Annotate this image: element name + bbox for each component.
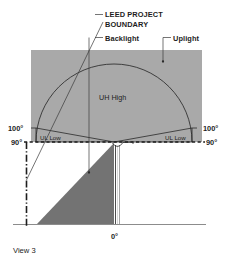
- luminaire-arm: [123, 142, 133, 144]
- backlight-label: Backlight: [105, 34, 140, 43]
- backlight-leader-dot: [88, 171, 90, 173]
- angle-label-left-90: 90°: [11, 138, 22, 147]
- lighting-zone-diagram: LEED PROJECT BOUNDARY Backlight Uplight …: [0, 0, 228, 267]
- angle-label-right-90: 90°: [206, 138, 217, 147]
- ul-low-right-label: UL Low: [165, 134, 186, 141]
- angle-label-left-100: 100°: [8, 124, 23, 133]
- ul-low-left-label: UL Low: [40, 134, 61, 141]
- backlight-shadow-triangle: [37, 143, 114, 224]
- leed-project-boundary-label-line1: LEED PROJECT: [105, 10, 163, 19]
- uh-high-label: UH High: [99, 93, 126, 102]
- uplight-leader-dot: [162, 60, 164, 62]
- angle-label-right-100: 100°: [203, 124, 218, 133]
- leed-project-boundary-label-line2: BOUNDARY: [105, 20, 148, 29]
- diagram-canvas: LEED PROJECT BOUNDARY Backlight Uplight …: [0, 0, 228, 267]
- angle-label-bottom-0: 0°: [111, 232, 118, 241]
- figure-caption: View 3: [13, 246, 36, 255]
- uplight-label: Uplight: [173, 34, 200, 43]
